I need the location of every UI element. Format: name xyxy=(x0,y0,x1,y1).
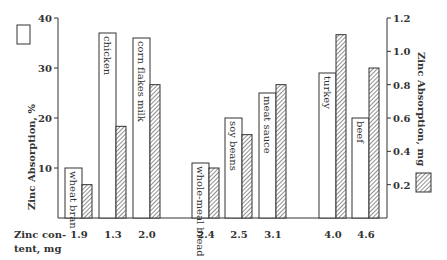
y2-tick-label: 1.2 xyxy=(393,13,410,24)
bar-category-label: beef xyxy=(355,121,366,144)
bar-category-label: wheat bran xyxy=(68,171,79,229)
legend-open-box xyxy=(17,25,30,44)
bar-group: turkey xyxy=(319,35,346,218)
y2-tick-label: 0.2 xyxy=(393,180,410,191)
zinc-content-value: 1.3 xyxy=(104,229,121,240)
y2-tick-label: 0.8 xyxy=(393,80,410,91)
zinc-content-value: 2.4 xyxy=(197,229,214,240)
bar-mg xyxy=(209,168,219,218)
y2-tick-label: 1.0 xyxy=(393,46,410,57)
zinc-content-value: 4.6 xyxy=(357,229,374,240)
bar-group: soy beans xyxy=(225,118,252,218)
legend-hatched-box xyxy=(416,173,431,192)
x-axis-title-line2: tent, mg xyxy=(14,243,61,255)
zinc-content-value: 1.9 xyxy=(70,229,87,240)
bar-mg xyxy=(336,35,346,218)
y-tick-label: 10 xyxy=(38,163,52,174)
y-tick-label: 40 xyxy=(38,13,52,24)
bars: wheat branchickencorn flakes milkwhole-m… xyxy=(65,33,379,257)
x-axis-title-line1: Zinc con- xyxy=(14,229,66,240)
bar-category-label: turkey xyxy=(322,76,333,109)
bar-group: chicken xyxy=(99,33,126,218)
y2-tick-label: 0.4 xyxy=(393,146,410,157)
bar-group: wheat bran xyxy=(65,168,92,229)
y2-axis-title: Zinc Absorption, mg xyxy=(415,52,427,166)
bar-category-label: meat sauce xyxy=(262,96,273,154)
y-tick-label: 20 xyxy=(38,113,52,124)
zinc-content-value: 3.1 xyxy=(264,229,281,240)
bar-mg xyxy=(150,85,160,218)
bar-mg xyxy=(242,135,252,218)
bar-group: whole-meal bread xyxy=(192,163,219,257)
bar-group: corn flakes milk xyxy=(133,38,160,218)
bar-mg xyxy=(116,126,126,218)
y2-tick-label: 0.6 xyxy=(393,113,410,124)
bar-mg xyxy=(369,68,379,218)
bar-category-label: chicken xyxy=(102,36,113,76)
bar-mg xyxy=(82,185,92,218)
bar-group: beef xyxy=(352,68,379,218)
y-axis-title: Zinc Absorption, % xyxy=(26,103,38,210)
bar-category-label: whole-meal bread xyxy=(195,166,206,257)
bar-group: meat sauce xyxy=(259,85,286,218)
bar-mg xyxy=(276,85,286,218)
zinc-content-value: 2.5 xyxy=(230,229,247,240)
zinc-content-value: 4.0 xyxy=(324,229,341,240)
bar-category-label: soy beans xyxy=(228,121,239,171)
x-tick-labels: 1.91.32.02.42.53.14.04.6 xyxy=(70,229,374,240)
y-tick-label: 30 xyxy=(38,63,52,74)
zinc-content-value: 2.0 xyxy=(138,229,155,240)
zinc-absorption-chart: Zinc Absorption, % Zinc Absorption, mg 1… xyxy=(0,0,447,260)
bar-category-label: corn flakes milk xyxy=(136,41,147,123)
